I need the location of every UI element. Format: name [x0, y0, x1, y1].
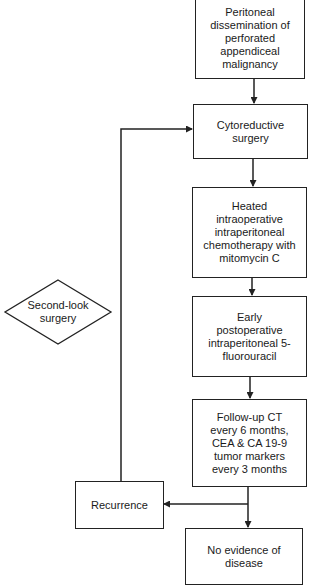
node-text-line: intraperitoneal	[203, 226, 295, 239]
node-text-line: Cytoreductive	[217, 119, 284, 132]
node-text-line: every 6 months,	[210, 424, 288, 437]
node-second-look: Second-look surgery	[5, 280, 111, 344]
node-text-line: chemotherapy with	[203, 239, 295, 252]
node-text-line: dissemination of	[210, 19, 290, 32]
node-hipec: Heated intraoperative intraperitoneal ch…	[192, 187, 307, 278]
node-text-line: Early	[208, 311, 291, 324]
node-text-line: Peritoneal	[210, 6, 290, 19]
node-ned: No evidence of disease	[185, 528, 303, 585]
node-text-line: perforated	[210, 32, 290, 45]
node-text-line: Heated	[203, 200, 295, 213]
node-text-line: appendiceal	[210, 45, 290, 58]
node-text-line: surgery	[217, 132, 284, 145]
node-text-line: No evidence of	[207, 544, 280, 557]
node-text-line: tumor markers	[210, 450, 288, 463]
node-text-line: Second-look	[27, 299, 88, 312]
node-followup: Follow-up CT every 6 months, CEA & CA 19…	[192, 399, 307, 487]
node-recurrence: Recurrence	[75, 481, 164, 529]
node-text-line: disease	[207, 557, 280, 570]
node-text-line: fluorouracil	[208, 350, 291, 363]
node-epic: Early postoperative intraperitoneal 5- f…	[192, 296, 307, 377]
node-text-line: intraoperative	[203, 213, 295, 226]
node-text-line: intraperitoneal 5-	[208, 337, 291, 350]
edge-recurrence-to-cytoreductive	[121, 129, 192, 481]
node-cytoreductive: Cytoreductive surgery	[193, 104, 308, 159]
node-text-line: Recurrence	[91, 499, 148, 512]
node-text-line: Follow-up CT	[210, 411, 288, 424]
node-text-line: malignancy	[210, 58, 290, 71]
node-text-line: CEA & CA 19-9	[210, 437, 288, 450]
node-text-line: surgery	[27, 312, 88, 325]
node-peritoneal: Peritoneal dissemination of perforated a…	[195, 0, 305, 79]
node-text-line: postoperative	[208, 324, 291, 337]
node-text-line: every 3 months	[210, 463, 288, 476]
node-text-line: mitomycin C	[203, 252, 295, 265]
